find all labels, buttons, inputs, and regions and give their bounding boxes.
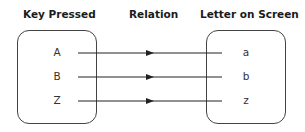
- key-label-b: B: [47, 70, 67, 82]
- letter-label-a: a: [236, 46, 256, 58]
- letter-label-z: z: [236, 94, 256, 106]
- key-label-z: Z: [47, 94, 67, 106]
- key-label-a: A: [47, 46, 67, 58]
- letter-label-b: b: [236, 70, 256, 82]
- relation-arrows: [0, 0, 305, 132]
